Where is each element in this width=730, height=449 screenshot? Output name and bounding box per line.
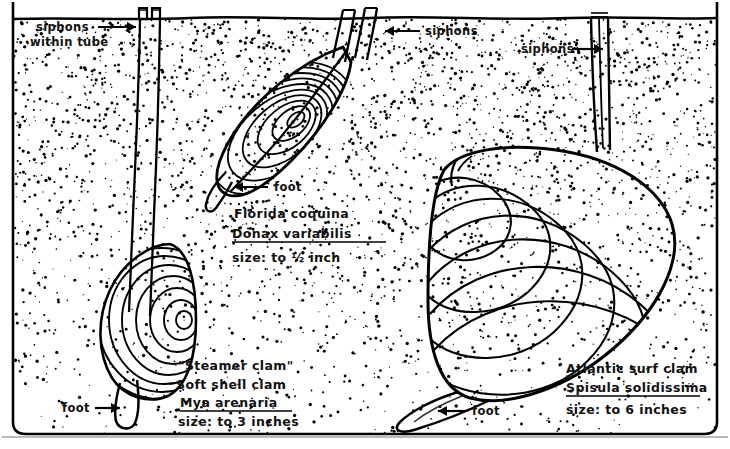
soft-shell-common-name-quoted: "Steamer clam" xyxy=(178,358,294,373)
surf-clam-size: size: to 6 inches xyxy=(566,402,687,417)
arrow-siphons-within-tube xyxy=(98,22,136,32)
species-label-coquina: Florida coquina Donax variabilis size: t… xyxy=(232,206,386,265)
arrow-siphons-surf-clam xyxy=(572,44,603,54)
surf-clam-scientific-name: Spisula solidissima xyxy=(566,380,708,395)
annotation-arrow-layer: siphons within tube siphons siphons foot… xyxy=(0,0,730,449)
illustration-canvas: siphons within tube siphons siphons foot… xyxy=(0,0,730,449)
species-label-surf-clam: Atlantic surf clam Spisula solidissima s… xyxy=(566,361,708,417)
coquina-size: size: to ½ inch xyxy=(232,250,341,265)
label-foot-surf-clam: foot xyxy=(472,404,500,418)
soft-shell-size: size: to 3 inches xyxy=(178,414,299,429)
label-foot-coquina: foot xyxy=(274,180,302,194)
label-siphons-surf-clam: siphons xyxy=(521,42,574,56)
coquina-scientific-name: Donax variabilis xyxy=(232,226,352,241)
coquina-common-name: Florida coquina xyxy=(234,206,349,221)
label-siphons-within-tube-line1: siphons xyxy=(36,20,89,34)
arrow-siphons-coquina xyxy=(385,26,420,36)
surf-clam-common-name: Atlantic surf clam xyxy=(566,361,698,376)
arrow-foot-soft-shell xyxy=(95,403,120,413)
label-foot-soft-shell: foot xyxy=(62,401,90,415)
label-siphons-coquina: siphons xyxy=(425,24,478,38)
soft-shell-scientific-name: Mya arenaria xyxy=(180,395,277,410)
arrow-foot-surf-clam xyxy=(438,406,466,416)
species-label-soft-shell: "Steamer clam" Soft shell clam Mya arena… xyxy=(176,358,299,429)
label-siphons-within-tube-line2: within tube xyxy=(30,35,109,49)
arrow-foot-coquina xyxy=(234,182,268,192)
soft-shell-common-name: Soft shell clam xyxy=(176,377,286,392)
